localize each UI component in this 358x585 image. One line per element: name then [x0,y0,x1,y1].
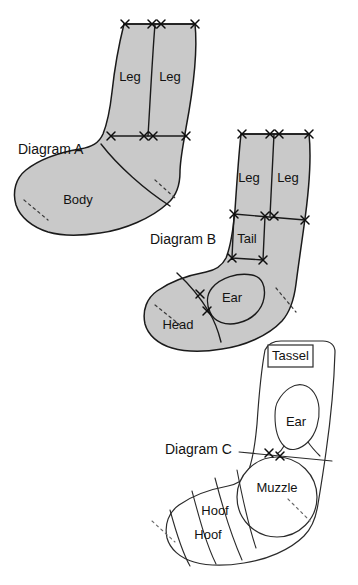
label-ear-b: Ear [222,290,243,305]
label-tassel: Tassel [272,348,309,363]
label-leg-a-left: Leg [119,69,141,84]
label-diagram-c: Diagram C [165,441,232,457]
label-leg-b-right: Leg [277,170,299,185]
sock-a-outline [14,24,195,235]
label-head: Head [162,317,193,332]
label-body: Body [63,192,93,207]
label-leg-a-right: Leg [159,69,181,84]
label-ear-c: Ear [286,414,307,429]
label-leg-b-left: Leg [238,170,260,185]
pattern-diagram-svg: Leg Leg Body Diagram A [0,0,358,585]
pattern-figure: Leg Leg Body Diagram A [0,0,358,585]
label-diagram-b: Diagram B [150,231,216,247]
label-hoof-lower: Hoof [194,527,222,542]
label-muzzle: Muzzle [256,480,297,495]
label-diagram-a: Diagram A [18,141,84,157]
diagram-c-group: Tassel Ear Muzzle Hoof Hoof Diagram C [152,341,335,566]
label-tail: Tail [237,231,257,246]
label-hoof-upper: Hoof [201,503,229,518]
diagram-a-group: Leg Leg Body Diagram A [14,20,199,235]
